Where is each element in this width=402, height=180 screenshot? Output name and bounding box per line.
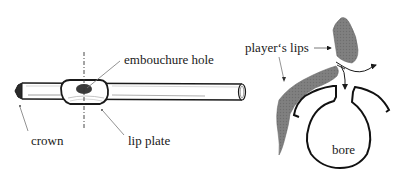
flute-embouchure-diagram: embouchure hole crown lip plate player‘s… xyxy=(0,0,402,180)
pointer-lower-lip xyxy=(279,57,284,80)
tube-open-end xyxy=(239,84,246,100)
label-players-lips: player‘s lips xyxy=(245,41,309,54)
crown-cap xyxy=(15,83,22,99)
pointer-crown xyxy=(20,107,28,131)
label-embouchure-hole: embouchure hole xyxy=(124,53,214,66)
label-crown: crown xyxy=(31,134,64,147)
upper-lip xyxy=(333,18,358,63)
label-lip-plate: lip plate xyxy=(128,134,170,147)
airflow-arrow-into-bore xyxy=(341,66,345,89)
label-bore: bore xyxy=(332,143,355,156)
flute-tube xyxy=(22,83,242,100)
pointer-lip-plate xyxy=(103,111,124,135)
